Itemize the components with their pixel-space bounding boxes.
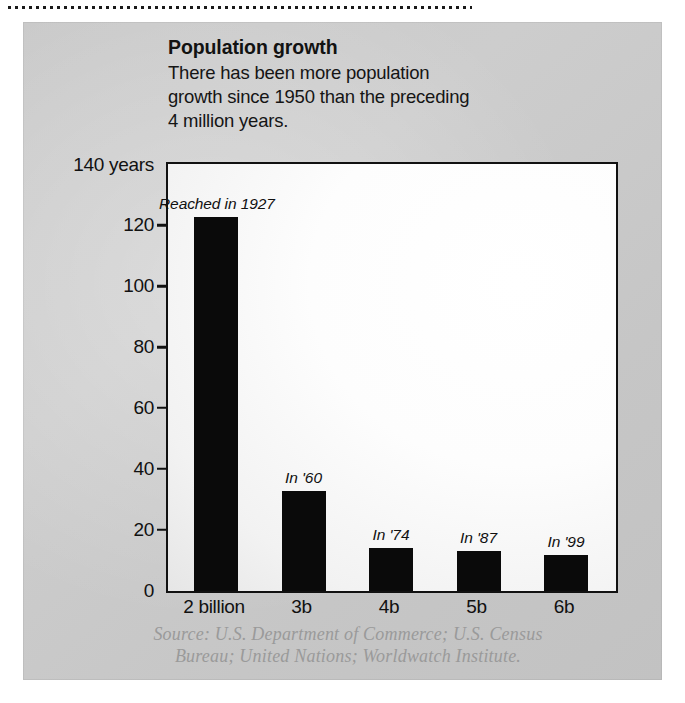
bar-group: In '87 xyxy=(457,165,501,591)
y-tick-mark-40 xyxy=(157,468,166,471)
y-tick-mark-20 xyxy=(157,528,166,531)
y-tick-label-0: 0 xyxy=(144,580,154,602)
bar-annotation-2-billion: Reached in 1927 xyxy=(159,195,275,213)
y-tick-label-100: 100 xyxy=(123,275,154,297)
source-line-1: Source: U.S. Department of Commerce; U.S… xyxy=(123,624,573,646)
y-tick-label-80: 80 xyxy=(133,336,154,358)
bar-annotation-6b: In '99 xyxy=(548,533,585,551)
y-tick-label-40: 40 xyxy=(133,458,154,480)
source-note: Source: U.S. Department of Commerce; U.S… xyxy=(123,624,573,667)
x-axis: 2 billion3b4b5b6b xyxy=(166,596,618,626)
bar-annotation-3b: In '60 xyxy=(285,469,322,487)
y-tick-mark-120 xyxy=(157,224,166,227)
x-tick-label-6b: 6b xyxy=(554,596,575,618)
bar-annotation-5b: In '87 xyxy=(460,529,497,547)
bar-group: In '99 xyxy=(544,165,588,591)
population-growth-figure: Population growth There has been more po… xyxy=(23,22,662,680)
bar-5b xyxy=(457,551,501,591)
bar-3b xyxy=(282,491,326,591)
x-tick-label-5b: 5b xyxy=(466,596,487,618)
y-tick-mark-60 xyxy=(157,407,166,410)
bar-2-billion xyxy=(194,217,238,591)
y-tick-label-140: 140 years xyxy=(73,154,154,176)
y-tick-label-60: 60 xyxy=(133,397,154,419)
source-line-2: Bureau; United Nations; Worldwatch Insti… xyxy=(123,646,573,668)
y-tick-label-120: 120 xyxy=(123,214,154,236)
bar-4b xyxy=(369,548,413,591)
chart-subtitle: There has been more population growth si… xyxy=(168,61,478,133)
y-tick-mark-100 xyxy=(157,285,166,288)
bar-group: In '60 xyxy=(282,165,326,591)
x-tick-label-2-billion: 2 billion xyxy=(183,596,245,618)
y-tick-label-20: 20 xyxy=(133,519,154,541)
plot-area: Reached in 1927In '60In '74In '87In '99 xyxy=(166,162,618,593)
y-tick-mark-80 xyxy=(157,346,166,349)
bars-layer: Reached in 1927In '60In '74In '87In '99 xyxy=(168,164,616,591)
y-axis: 140 years120100806040200 xyxy=(23,162,166,593)
figure-heading-block: Population growth There has been more po… xyxy=(168,35,588,134)
bar-annotation-4b: In '74 xyxy=(373,526,410,544)
bar-group: In '74 xyxy=(369,165,413,591)
x-tick-label-4b: 4b xyxy=(379,596,400,618)
chart-title: Population growth xyxy=(168,35,588,59)
top-dotted-rule xyxy=(8,6,472,9)
x-tick-label-3b: 3b xyxy=(291,596,312,618)
bar-group: Reached in 1927 xyxy=(194,165,238,591)
bar-6b xyxy=(544,555,588,592)
